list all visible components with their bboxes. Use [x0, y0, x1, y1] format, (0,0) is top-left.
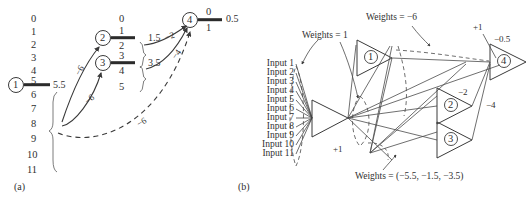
input-label-11: Input 11: [236, 149, 294, 159]
tri-3-label: 3: [448, 134, 453, 145]
annotation-bias-plus-one-bottom: +1: [333, 145, 343, 154]
figure-container: 0 1 2 3 4 5 6 7 8 9 10 11 1 5.5 2 0 1 2 …: [0, 0, 532, 200]
annotation-weights-minus-six: Weights = −6: [366, 13, 417, 23]
annotation-weights-triple: Weights = (−5.5, −1.5, −3.5): [355, 172, 464, 182]
annotation-weights-one: Weights = 1: [302, 31, 348, 41]
panel-b-tag: (b): [238, 182, 250, 192]
annotation-output-bias: −0.5: [494, 35, 510, 44]
annotation-bias-plus-one-top: +1: [473, 23, 483, 32]
tri-2-label: 2: [448, 100, 453, 111]
annotation-weight-minus-two: −2: [458, 88, 468, 97]
annotation-weight-minus-four: −4: [486, 101, 496, 110]
tri-4-label: 4: [501, 56, 506, 67]
tri-1-label: 1: [368, 52, 373, 63]
